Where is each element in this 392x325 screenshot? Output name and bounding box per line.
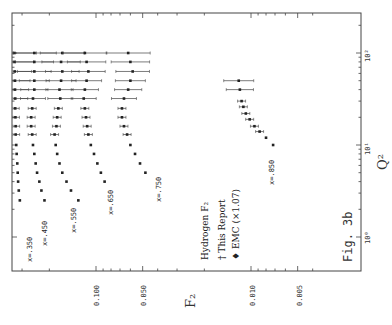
chart: 0.100 0.050 0.010 0.005 10⁰ 10¹ 10² Q² F… <box>0 0 392 325</box>
y-tick-label-0.050: 0.050 <box>140 285 148 306</box>
data-points <box>13 52 274 202</box>
figure-caption: Fig. 3b <box>341 211 355 262</box>
legend-entry-emc: ♦ EMC (×1.07) <box>231 189 241 260</box>
series-label-550: x=.550 <box>70 208 78 233</box>
x-axis-title: Q² <box>375 154 390 170</box>
y-axis-title: F₂ <box>183 294 198 308</box>
y-tick-label-0.010: 0.010 <box>249 285 257 306</box>
legend-label: This Report <box>217 199 227 252</box>
x-tick-label-10: 10¹ <box>364 142 372 155</box>
legend-marker-cross-icon: † <box>217 256 227 261</box>
series-label-650: x=.650 <box>107 190 115 215</box>
series-label-850: x=.850 <box>268 160 276 185</box>
y-tick-label-0.100: 0.100 <box>93 285 101 306</box>
plot-frame <box>12 13 361 271</box>
series-label-450: x=.450 <box>41 221 49 246</box>
axis-ticks <box>12 13 361 271</box>
legend-label: EMC (×1.07) <box>231 189 241 249</box>
legend-entry-this-report: † This Report <box>217 199 227 260</box>
plot-area <box>0 0 392 325</box>
x-tick-label-100: 10² <box>364 49 372 62</box>
legend-title: Hydrogen F₂ <box>200 202 210 260</box>
series-label-750: x=.750 <box>155 177 163 202</box>
legend-marker-diamond-icon: ♦ <box>231 252 241 260</box>
x-tick-label-1: 10⁰ <box>364 231 372 244</box>
series-label-350: x=.350 <box>26 237 34 262</box>
y-tick-label-0.005: 0.005 <box>296 285 304 306</box>
